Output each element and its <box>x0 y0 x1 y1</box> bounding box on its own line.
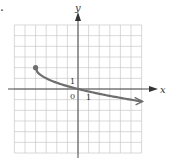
origin-label: 0 <box>70 92 75 101</box>
y-axis-label: y <box>74 2 81 13</box>
graph: . x y 1 0 1 <box>0 0 170 167</box>
x-axis-label: x <box>160 84 166 95</box>
y-axis-arrow-icon <box>75 12 81 21</box>
x-unit-label: 1 <box>86 93 91 102</box>
axes <box>8 12 158 158</box>
x-axis-arrow-icon <box>149 86 158 92</box>
item-marker: . <box>0 0 4 14</box>
y-unit-label: 1 <box>70 77 75 86</box>
closed-endpoint-dot <box>33 65 38 70</box>
